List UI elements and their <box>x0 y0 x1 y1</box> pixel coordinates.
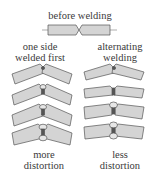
before-welding-plates <box>42 25 117 35</box>
left-stage-4 <box>12 124 72 145</box>
right-stage-2 <box>84 86 144 98</box>
left-stage-3 <box>12 104 72 126</box>
welding-diagram <box>0 0 157 176</box>
right-stage-4 <box>84 122 144 139</box>
right-stage-3 <box>84 102 144 119</box>
right-stage-1 <box>84 64 144 80</box>
left-stage-1 <box>12 64 72 84</box>
left-stage-2 <box>12 84 72 105</box>
